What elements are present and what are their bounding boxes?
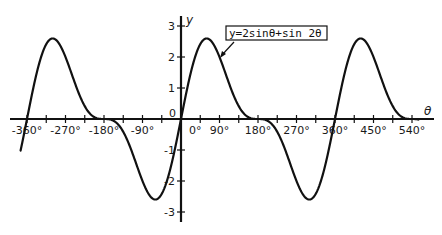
x-tick-label: 360° <box>322 124 349 137</box>
x-tick-label: -360° <box>12 124 42 137</box>
y-tick-label: 3 <box>168 20 175 33</box>
formula-annotation: y=2sinθ+sin 2θ <box>220 26 327 58</box>
y-tick-label: 2 <box>168 51 175 64</box>
x-tick-label: 270° <box>283 124 310 137</box>
x-tick-label: 540° <box>399 124 426 137</box>
x-axis: -360°-270°-180°-90°0°90°180°270°360°450°… <box>10 104 434 137</box>
x-tick-label: 180° <box>245 124 272 137</box>
x-tick-label: 90° <box>210 124 230 137</box>
x-tick-marks <box>27 115 412 123</box>
y-tick-label: -3 <box>164 206 175 219</box>
x-axis-label: θ <box>424 104 432 118</box>
x-tick-label: 0° <box>189 124 202 137</box>
x-tick-label: -270° <box>50 124 80 137</box>
function-plot: -360°-270°-180°-90°0°90°180°270°360°450°… <box>0 0 442 235</box>
x-tick-label: -90° <box>131 124 154 137</box>
y-axis: -3-2-1123 y 0 <box>164 13 194 222</box>
x-tick-label: 450° <box>360 124 387 137</box>
x-tick-label: -180° <box>89 124 119 137</box>
x-tick-labels: -360°-270°-180°-90°0°90°180°270°360°450°… <box>12 124 425 137</box>
formula-label: y=2sinθ+sin 2θ <box>229 27 322 40</box>
y-tick-label: 1 <box>168 82 175 95</box>
y-axis-label: y <box>185 13 194 27</box>
origin-label: 0 <box>169 107 176 120</box>
